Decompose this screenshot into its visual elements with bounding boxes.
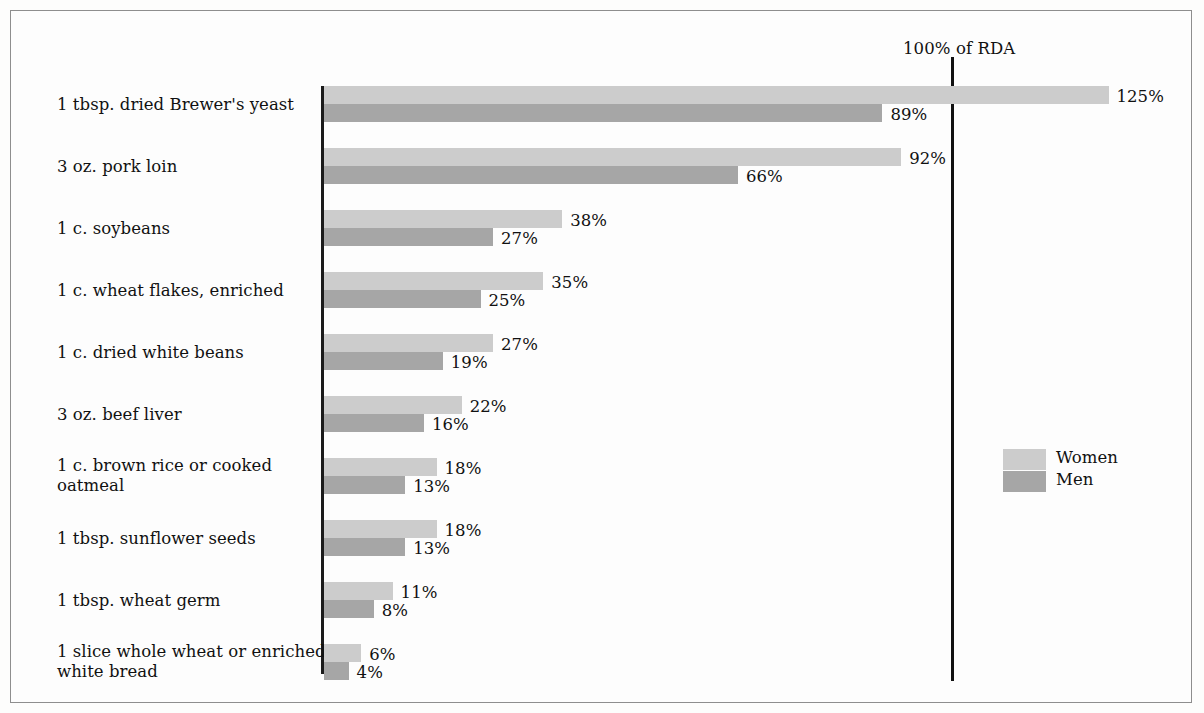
bar-women — [324, 396, 462, 414]
category-label: 1 c. dried white beans — [57, 343, 244, 363]
plot-area: 100% of RDA 1 tbsp. dried Brewer's yeast… — [0, 0, 1204, 713]
bar-value-women: 22% — [470, 397, 507, 416]
bar-value-men: 13% — [413, 477, 450, 496]
bar-women — [324, 272, 544, 290]
bar-men — [324, 538, 406, 556]
bar-value-women: 11% — [401, 583, 438, 602]
bar-value-women: 92% — [909, 149, 946, 168]
bar-women — [324, 644, 362, 662]
bar-value-women: 38% — [570, 211, 607, 230]
category-label: 1 c. wheat flakes, enriched — [57, 281, 284, 301]
bar-women — [324, 86, 1109, 104]
bar-value-women: 18% — [445, 459, 482, 478]
bar-men — [324, 290, 481, 308]
bar-value-men: 27% — [501, 229, 538, 248]
category-label: 1 c. brown rice or cooked oatmeal — [57, 456, 272, 496]
chart-legend: Women Men — [1003, 449, 1173, 497]
bar-women — [324, 582, 393, 600]
bar-value-men: 4% — [357, 663, 383, 682]
bar-value-men: 13% — [413, 539, 450, 558]
bar-value-men: 16% — [432, 415, 469, 434]
rda-reference-label: 100% of RDA — [903, 39, 1015, 58]
category-label: 3 oz. pork loin — [57, 157, 177, 177]
bar-value-women: 6% — [369, 645, 395, 664]
category-label: 1 tbsp. wheat germ — [57, 591, 220, 611]
bar-men — [324, 414, 424, 432]
bar-women — [324, 210, 563, 228]
legend-label-women: Women — [1056, 448, 1118, 467]
bar-value-men: 19% — [451, 353, 488, 372]
bar-women — [324, 458, 437, 476]
category-label: 3 oz. beef liver — [57, 405, 182, 425]
bar-women — [324, 148, 902, 166]
bar-value-women: 35% — [551, 273, 588, 292]
legend-label-men: Men — [1056, 470, 1093, 489]
bar-men — [324, 166, 738, 184]
bar-value-women: 125% — [1117, 87, 1164, 106]
category-label: 1 tbsp. dried Brewer's yeast — [57, 95, 294, 115]
category-label: 1 c. soybeans — [57, 219, 170, 239]
bar-men — [324, 662, 349, 680]
bar-women — [324, 334, 494, 352]
bar-men — [324, 228, 494, 246]
legend-swatch-women — [1003, 449, 1046, 470]
bar-men — [324, 104, 883, 122]
bar-value-women: 27% — [501, 335, 538, 354]
bar-women — [324, 520, 437, 538]
bar-value-men: 25% — [489, 291, 526, 310]
bar-value-women: 18% — [445, 521, 482, 540]
category-label: 1 tbsp. sunflower seeds — [57, 529, 256, 549]
legend-swatch-men — [1003, 471, 1046, 492]
bar-men — [324, 600, 374, 618]
chart-container: 100% of RDA 1 tbsp. dried Brewer's yeast… — [0, 0, 1204, 713]
bar-value-men: 8% — [382, 601, 408, 620]
rda-reference-line — [951, 57, 954, 681]
category-label: 1 slice whole wheat or enriched white br… — [57, 642, 326, 682]
bar-men — [324, 476, 406, 494]
bar-value-men: 89% — [890, 105, 927, 124]
bar-men — [324, 352, 443, 370]
bar-value-men: 66% — [746, 167, 783, 186]
